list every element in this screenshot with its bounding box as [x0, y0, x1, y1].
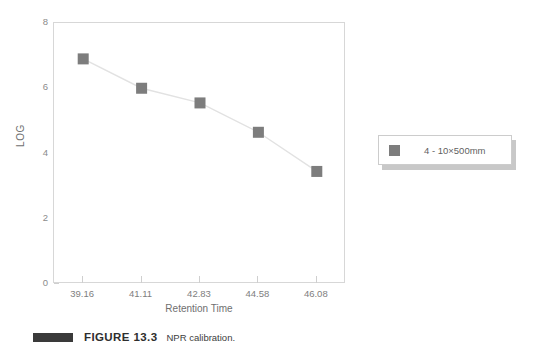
data-point-marker[interactable] [195, 97, 206, 108]
series-polyline [83, 59, 317, 172]
data-point-marker[interactable] [253, 127, 264, 138]
legend-marker-swatch [389, 145, 400, 156]
x-axis-title: Retention Time [53, 303, 345, 314]
y-axis-tick-label: 2 [26, 213, 48, 223]
x-axis-tick-label: 41.11 [112, 288, 170, 299]
data-point-marker[interactable] [311, 166, 322, 177]
x-axis-tick-label: 46.08 [287, 288, 345, 299]
plot-area [53, 22, 345, 283]
y-axis-title: LOG [15, 106, 26, 166]
x-axis-tick-label: 42.83 [170, 288, 228, 299]
legend-entry-label: 4 - 10×500mm [424, 145, 486, 156]
x-axis-tick-label: 39.16 [53, 288, 111, 299]
data-point-marker[interactable] [136, 83, 147, 94]
y-axis-tick-label: 6 [26, 82, 48, 92]
x-axis-tick-mark [141, 276, 142, 283]
x-axis-tick-label: 44.58 [228, 288, 286, 299]
x-axis-tick-mark [82, 276, 83, 283]
y-axis-tick-label: 8 [26, 17, 48, 27]
y-axis-tick-label: 4 [26, 148, 48, 158]
data-point-marker[interactable] [78, 53, 89, 64]
y-axis-tick-label: 0 [26, 278, 48, 288]
figure-caption: FIGURE 13.3 NPR calibration. [33, 329, 235, 345]
legend-box[interactable]: 4 - 10×500mm [378, 135, 512, 165]
x-axis-tick-mark [257, 276, 258, 283]
x-axis-tick-mark [199, 276, 200, 283]
x-axis-tick-mark [316, 276, 317, 283]
data-series-line [54, 23, 346, 284]
figure-container: LOG 02468 39.1641.1142.8344.5846.08 Rete… [0, 0, 537, 352]
caption-figure-label: FIGURE 13.3 [84, 331, 157, 343]
chart-title [186, 0, 366, 2]
caption-bar [33, 333, 73, 342]
caption-description: NPR calibration. [166, 332, 235, 343]
